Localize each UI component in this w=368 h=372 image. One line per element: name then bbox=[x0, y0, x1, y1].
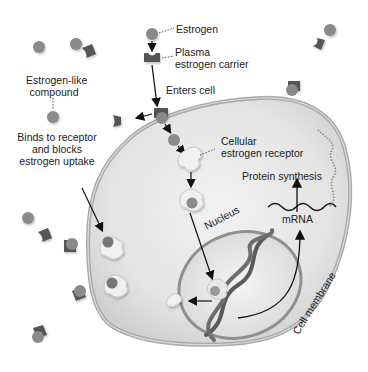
label-mrna: mRNA bbox=[282, 213, 313, 225]
label-binds-line1: Binds to receptor bbox=[14, 131, 100, 143]
label-protein-synthesis: Protein synthesis bbox=[242, 170, 322, 182]
label-binds-line3: estrogen uptake bbox=[14, 155, 100, 167]
estrogen-entering-icon bbox=[156, 112, 168, 124]
label-carrier-line2: estrogen carrier bbox=[175, 58, 249, 70]
released-carrier-icon bbox=[113, 115, 121, 127]
label-carrier-line1: Plasma bbox=[175, 46, 210, 58]
label-estrogen-like-line2: compound bbox=[26, 86, 82, 98]
label-estrogen-like-line1: Estrogen-like bbox=[26, 74, 82, 86]
estrogen-pathway-diagram: Estrogen Plasma estrogen carrier Enters … bbox=[0, 0, 368, 372]
plasma-carrier-icon bbox=[144, 53, 160, 62]
estrogen-in-cytoplasm-icon bbox=[168, 134, 180, 146]
label-binds-line2: and blocks bbox=[14, 143, 100, 155]
label-receptor-line2: estrogen receptor bbox=[221, 147, 303, 159]
estrogen-like-compound-icon bbox=[47, 111, 59, 123]
label-receptor-line1: Cellular bbox=[221, 135, 257, 147]
label-estrogen: Estrogen bbox=[176, 23, 218, 35]
estrogen-molecule-icon bbox=[146, 28, 158, 40]
label-enters-cell: Enters cell bbox=[166, 84, 215, 96]
